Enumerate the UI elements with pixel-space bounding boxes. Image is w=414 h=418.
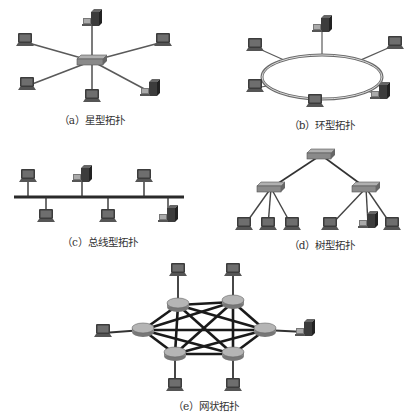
- server-computer-icon: [82, 9, 102, 26]
- caption-tree: （d）树型拓扑: [289, 237, 356, 252]
- laptop-icon: [18, 77, 36, 90]
- topology-diagram: [0, 0, 414, 418]
- switch-icon: [352, 182, 380, 192]
- laptop-icon: [16, 33, 34, 46]
- switch-icon: [257, 182, 285, 192]
- switch-icon: [307, 149, 335, 159]
- caption-bus: （c）总线型拓扑: [62, 234, 138, 249]
- router-icon: [222, 295, 244, 309]
- laptop-icon: [19, 169, 37, 182]
- laptop-icon: [37, 209, 55, 222]
- laptop-icon: [224, 378, 242, 391]
- router-icon: [167, 298, 189, 312]
- server-computer-icon: [72, 165, 92, 182]
- server-computer-icon: [370, 82, 390, 99]
- server-computer-icon: [295, 319, 315, 336]
- router-icon: [222, 347, 244, 361]
- router-icon: [132, 323, 154, 337]
- server-computer-icon: [158, 205, 178, 222]
- laptop-icon: [283, 217, 301, 230]
- laptop-icon: [154, 33, 172, 46]
- laptop-icon: [246, 79, 264, 92]
- caption-star: （a）星型拓扑: [59, 112, 125, 127]
- laptop-icon: [169, 263, 187, 276]
- laptop-icon: [135, 169, 153, 182]
- laptop-icon: [246, 38, 264, 51]
- laptop-icon: [386, 36, 404, 49]
- server-computer-icon: [312, 15, 332, 32]
- laptop-icon: [94, 324, 112, 337]
- caption-mesh: （e）网状拓扑: [173, 398, 239, 413]
- laptop-icon: [383, 217, 401, 230]
- laptop-icon: [83, 89, 101, 102]
- laptop-icon: [166, 378, 184, 391]
- server-computer-icon: [358, 211, 378, 228]
- laptop-icon: [306, 94, 324, 107]
- laptop-icon: [259, 217, 277, 230]
- router-icon: [254, 323, 276, 337]
- switch-icon: [77, 55, 107, 65]
- laptop-icon: [235, 217, 253, 230]
- laptop-icon: [224, 263, 242, 276]
- laptop-icon: [99, 209, 117, 222]
- caption-ring: （b）环型拓扑: [289, 117, 356, 132]
- laptop-icon: [321, 217, 339, 230]
- router-icon: [164, 347, 186, 361]
